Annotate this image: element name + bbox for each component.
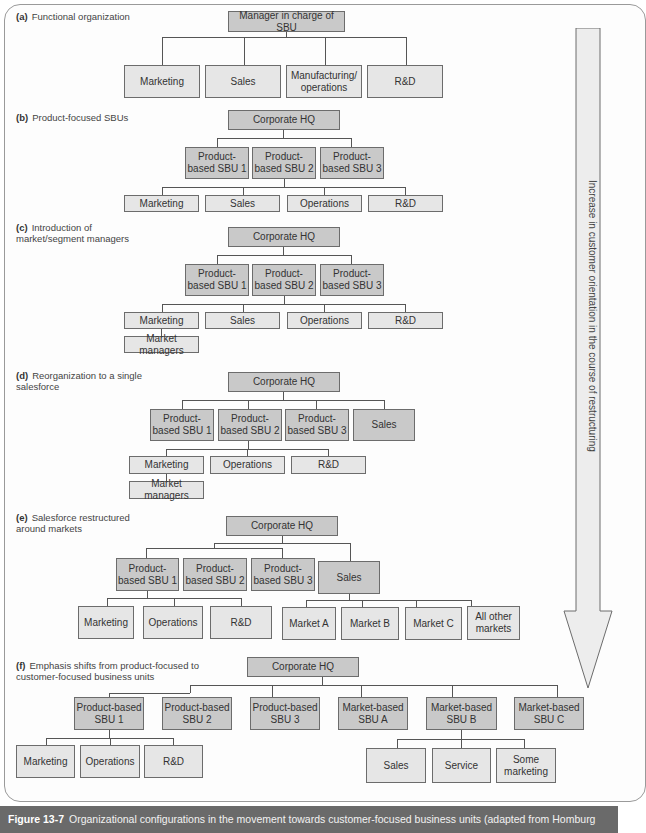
connector <box>405 304 406 312</box>
connector <box>283 247 284 255</box>
connector <box>244 37 245 65</box>
connector <box>166 449 167 456</box>
function-box: R&D <box>210 606 272 639</box>
sbu-box: Product-based SBU 1 <box>185 264 249 296</box>
arrow-label: Increase in customer orientation in the … <box>584 180 598 600</box>
function-box: Marketing <box>16 745 75 778</box>
function-box: Marketing <box>124 65 200 98</box>
connector <box>147 591 148 598</box>
function-box: Sales <box>205 312 280 329</box>
section-c-label: (c)Introduction of market/segment manage… <box>16 222 156 244</box>
connector <box>247 449 248 456</box>
sbu-box: Product-based SBU 1 <box>185 147 249 179</box>
connector <box>217 255 351 256</box>
market-box: All other markets <box>467 606 520 640</box>
function-box: Manufacturing/ operations <box>286 65 362 98</box>
figure-number: Figure 13-7 <box>8 813 64 825</box>
connector <box>324 187 325 195</box>
connector <box>248 400 249 409</box>
connector <box>217 138 351 139</box>
function-box: Operations <box>287 312 362 329</box>
connector <box>174 598 175 606</box>
connector <box>173 738 174 745</box>
connector <box>46 738 47 745</box>
connector <box>384 400 385 409</box>
connector <box>328 449 329 456</box>
function-box: R&D <box>367 65 443 98</box>
sbu-box: Product-based SBU 3 <box>320 264 384 296</box>
connector <box>405 187 406 195</box>
connector <box>217 138 218 147</box>
connector <box>243 304 244 312</box>
function-box: Marketing <box>124 312 199 329</box>
connector <box>557 685 558 697</box>
function-box: Marketing <box>124 195 199 212</box>
connector <box>324 304 325 312</box>
connector <box>283 392 284 400</box>
market-function-box: Sales <box>366 748 426 783</box>
connector <box>283 130 284 138</box>
sbu-box: Product-based SBU 2 <box>218 409 282 441</box>
connector <box>524 739 525 748</box>
connector <box>461 739 462 748</box>
market-box: Market B <box>341 607 399 640</box>
sbu-box: Product-based SBU 3 <box>285 409 349 441</box>
connector <box>190 685 557 686</box>
section-b-label: (b)Product-focused SBUs <box>16 112 128 123</box>
market-box: Market C <box>405 607 462 640</box>
connector <box>110 738 111 745</box>
connector <box>397 739 398 748</box>
market-box: Market A <box>282 607 336 640</box>
corporate-hq-box: Corporate HQ <box>228 110 340 130</box>
connector <box>109 730 110 738</box>
sbu-box: Product-based SBU 2 <box>252 264 316 296</box>
section-d-label: (d)Reorganization to a single salesforce <box>16 370 156 392</box>
connector <box>146 548 147 558</box>
connector <box>182 400 183 409</box>
function-box: Sales <box>205 65 281 98</box>
market-sbu-box: Market-based SBU B <box>426 697 497 730</box>
connector <box>361 685 362 697</box>
function-box: Operations <box>143 606 203 639</box>
connector <box>243 187 244 195</box>
section-a-label: (a)Functional organization <box>16 11 130 22</box>
corporate-hq-box: Corporate HQ <box>228 227 340 247</box>
connector <box>461 730 462 739</box>
connector <box>452 685 453 697</box>
function-box: R&D <box>144 745 203 778</box>
connector <box>406 37 407 65</box>
function-box: Sales <box>205 195 280 212</box>
connector <box>282 548 283 558</box>
corporate-hq-box: Corporate HQ <box>226 516 338 536</box>
connector <box>284 296 285 304</box>
caption-text: Organizational configurations in the mov… <box>69 813 595 825</box>
connector <box>107 598 108 606</box>
function-box: Marketing <box>78 606 134 639</box>
connector <box>162 187 163 195</box>
market-managers-box: Market managers <box>129 481 204 499</box>
connector <box>217 255 218 264</box>
connector <box>162 37 163 65</box>
connector <box>241 598 242 606</box>
sbu-box: Product-based SBU 1 <box>150 409 214 441</box>
function-box: Operations <box>80 745 140 778</box>
connector <box>351 138 352 147</box>
connector <box>282 536 283 543</box>
sbu-box: Product-based SBU 1 <box>116 558 179 591</box>
market-function-box: Some marketing <box>496 748 556 783</box>
connector <box>162 37 407 38</box>
connector <box>306 600 471 601</box>
connector <box>325 37 326 65</box>
corporate-hq-box: Corporate HQ <box>247 657 359 677</box>
connector <box>190 685 191 693</box>
connector <box>162 304 406 305</box>
sbu-box: Product-based SBU 2 <box>252 147 316 179</box>
section-e-label: (e)Salesforce restructured around market… <box>16 512 156 534</box>
sbu-box: Product-based SBU 3 <box>250 697 320 730</box>
connector <box>416 600 417 607</box>
connector <box>162 187 406 188</box>
sbu-box: Product-based SBU 3 <box>251 558 315 591</box>
function-box: R&D <box>368 195 443 212</box>
market-sbu-box: Market-based SBU A <box>338 697 408 730</box>
connector <box>362 600 363 607</box>
